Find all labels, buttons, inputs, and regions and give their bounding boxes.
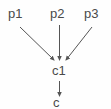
node-label-c2: c: [53, 96, 60, 109]
node-label-c1: c1: [52, 64, 66, 77]
node-label-p1: p1: [8, 7, 22, 20]
diagram-canvas: p1 p2 p3 c1 c: [0, 0, 111, 109]
node-label-p2: p2: [50, 7, 64, 20]
edge-p3-to-c1: [66, 27, 92, 60]
edge-p1-to-c1: [20, 27, 54, 60]
node-label-p3: p3: [84, 7, 98, 20]
